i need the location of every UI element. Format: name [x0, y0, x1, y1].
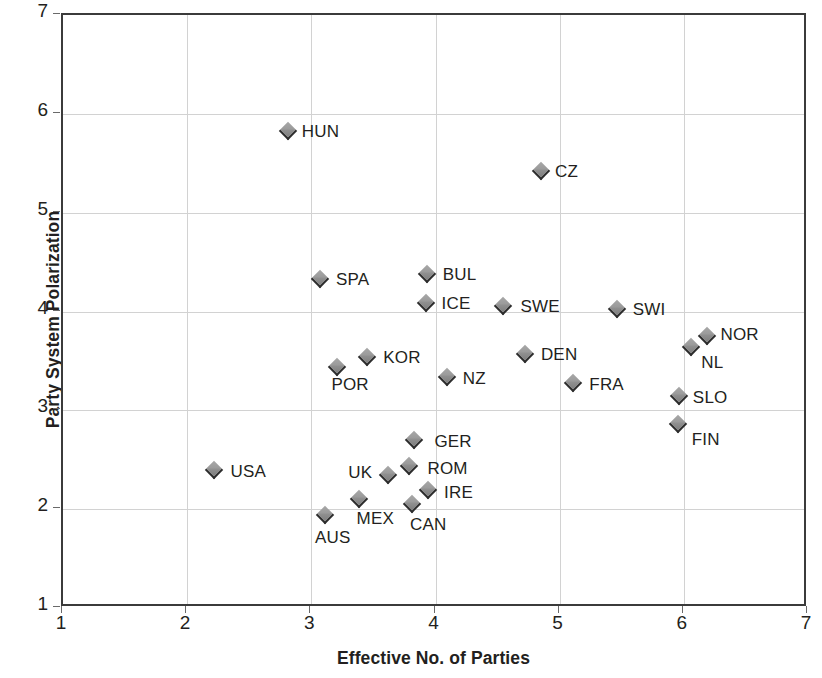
data-point-label: SPA: [336, 270, 369, 290]
data-point-marker: [400, 456, 418, 474]
y-axis-tick-label: 5: [12, 198, 48, 220]
data-point-marker: [311, 270, 329, 288]
data-point-label: HUN: [302, 122, 339, 142]
data-point-marker: [670, 387, 688, 405]
y-axis-tick-label: 7: [12, 0, 48, 22]
gridline-horizontal: [63, 213, 804, 214]
data-point-label: BUL: [443, 265, 477, 285]
data-point-marker: [564, 373, 582, 391]
data-point-marker: [358, 348, 376, 366]
data-point-label: CAN: [410, 515, 447, 535]
y-axis-tick: [53, 211, 60, 212]
y-axis-tick: [53, 112, 60, 113]
data-point-label: KOR: [383, 348, 420, 368]
gridline-horizontal: [63, 509, 804, 510]
data-point-marker: [419, 481, 437, 499]
data-point-label: NL: [701, 353, 723, 373]
data-point-label: USA: [230, 462, 266, 482]
data-point-label: IRE: [444, 483, 473, 503]
data-point-label: NZ: [463, 369, 486, 389]
x-axis-tick-label: 1: [41, 612, 81, 634]
data-point-label: GER: [434, 432, 471, 452]
data-point-marker: [532, 162, 550, 180]
data-point-label: CZ: [555, 162, 578, 182]
data-point-marker: [405, 431, 423, 449]
y-axis-tick: [53, 408, 60, 409]
x-axis-tick-label: 4: [414, 612, 454, 634]
y-axis-tick-label: 2: [12, 494, 48, 516]
data-point-label: AUS: [315, 528, 351, 548]
data-point-marker: [328, 358, 346, 376]
data-point-label: SWI: [633, 300, 666, 320]
y-axis-tick-label: 1: [12, 593, 48, 615]
y-axis-tick-label: 3: [12, 395, 48, 417]
data-point-label: DEN: [541, 345, 578, 365]
plot-area: HUNCZSPABULICESWESWINORNLDENKORPORNZFRAS…: [61, 13, 806, 606]
data-point-marker: [279, 121, 297, 139]
gridline-horizontal: [63, 114, 804, 115]
gridline-vertical: [684, 15, 685, 604]
data-point-marker: [403, 495, 421, 513]
y-axis-tick: [53, 606, 60, 607]
gridline-horizontal: [63, 410, 804, 411]
y-axis-tick: [53, 507, 60, 508]
data-point-marker: [698, 327, 716, 345]
data-point-marker: [205, 460, 223, 478]
data-point-label: ICE: [442, 294, 471, 314]
data-point-marker: [416, 293, 434, 311]
y-axis-tick: [53, 310, 60, 311]
data-point-label: SLO: [693, 388, 728, 408]
data-point-label: ROM: [427, 459, 467, 479]
data-point-marker: [379, 465, 397, 483]
x-axis-tick-label: 2: [165, 612, 205, 634]
y-axis-tick: [53, 13, 60, 14]
data-point-marker: [608, 299, 626, 317]
data-point-label: POR: [331, 375, 368, 395]
data-point-marker: [349, 490, 367, 508]
x-axis-title: Effective No. of Parties: [61, 648, 806, 669]
y-axis-tick-label: 6: [12, 99, 48, 121]
gridline-horizontal: [63, 312, 804, 313]
x-axis-tick-label: 3: [289, 612, 329, 634]
y-axis-tick-label: 4: [12, 297, 48, 319]
scatter-chart: Party System Polarization Effective No. …: [0, 0, 822, 678]
gridline-vertical: [187, 15, 188, 604]
data-point-marker: [682, 338, 700, 356]
x-axis-tick-label: 7: [786, 612, 822, 634]
x-axis-tick-label: 6: [662, 612, 702, 634]
gridline-vertical: [311, 15, 312, 604]
data-point-label: SWE: [521, 297, 560, 317]
data-point-marker: [437, 368, 455, 386]
data-point-label: FRA: [589, 375, 624, 395]
x-axis-tick-label: 5: [538, 612, 578, 634]
data-point-marker: [418, 265, 436, 283]
data-point-label: MEX: [357, 509, 394, 529]
data-point-label: FIN: [692, 430, 720, 450]
data-point-label: UK: [348, 463, 372, 483]
data-point-marker: [516, 345, 534, 363]
data-point-label: NOR: [720, 325, 758, 345]
